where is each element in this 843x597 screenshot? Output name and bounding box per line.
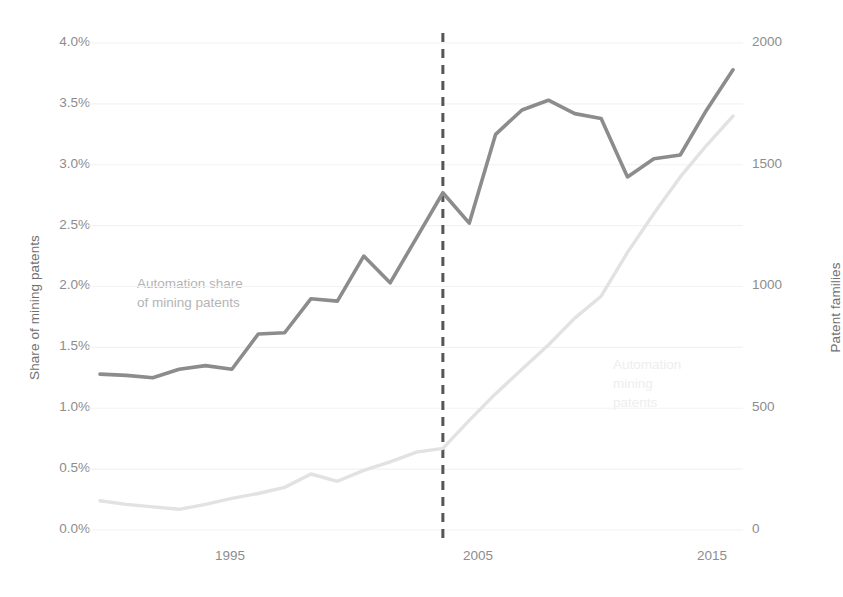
series-line-automation-mining-patents [100,116,733,509]
series-line-automation-share [100,70,733,378]
gridlines [88,43,743,530]
